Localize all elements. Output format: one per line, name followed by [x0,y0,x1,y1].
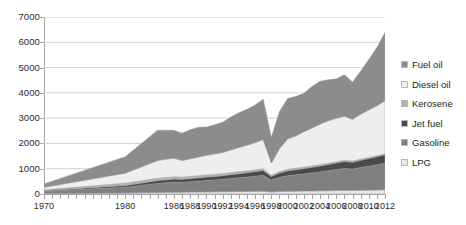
legend-label: LPG [412,157,431,168]
legend-swatch-icon [401,159,408,166]
stacked-area-plot [44,17,385,194]
x-tick-label: 1980 [108,201,142,212]
x-axis-tick [369,195,370,199]
legend-label: Fuel oil [412,59,443,70]
x-axis-tick [125,195,126,199]
x-axis-tick [336,195,337,199]
x-tick-label: 1970 [27,201,61,212]
x-axis-tick [85,195,86,199]
x-axis-tick [109,195,110,199]
x-axis-tick [312,195,313,199]
y-tick-label: 6000 [0,37,40,47]
x-axis-tick [141,195,142,199]
y-tick-label: 3000 [0,113,40,123]
x-axis-ticks [44,195,386,199]
plot-area [44,17,385,194]
x-axis-tick [239,195,240,199]
x-axis-tick [166,195,167,199]
x-axis-tick [288,195,289,199]
legend-item[interactable]: Jet fuel [401,114,465,134]
x-axis-tick [377,195,378,199]
y-tick-label: 1000 [0,164,40,174]
y-tick-label: 4000 [0,88,40,98]
x-axis-tick [328,195,329,199]
legend-swatch-icon [401,100,408,107]
x-axis-labels: 1970198019861988199019921994199619982000… [0,201,466,215]
x-axis-tick [44,195,45,199]
legend-item[interactable]: Gasoline [401,133,465,153]
x-axis-tick [223,195,224,199]
chart-screenshot: 01000200030004000500060007000 1970198019… [0,0,466,225]
x-axis-tick [247,195,248,199]
y-axis-tick [40,17,44,18]
x-axis-tick [133,195,134,199]
legend-item[interactable]: LPG [401,153,465,173]
x-axis-tick [158,195,159,199]
y-axis-tick [40,143,44,144]
x-axis-tick [52,195,53,199]
y-axis-tick [40,118,44,119]
legend-item[interactable]: Fuel oil [401,55,465,75]
x-axis-tick [344,195,345,199]
y-axis-tick [40,68,44,69]
x-axis-tick [263,195,264,199]
y-tick-label: 2000 [0,138,40,148]
legend-label: Jet fuel [412,118,443,129]
y-tick-label: 5000 [0,63,40,73]
legend-swatch-icon [401,81,408,88]
y-axis-tick [40,194,44,195]
legend-item[interactable]: Diesel oil [401,75,465,95]
legend-label: Diesel oil [412,79,451,90]
x-axis-tick [296,195,297,199]
x-axis-tick [60,195,61,199]
x-axis-tick [231,195,232,199]
x-axis-tick [271,195,272,199]
legend-swatch-icon [401,139,408,146]
x-axis-tick [361,195,362,199]
legend-item[interactable]: Kerosene [401,94,465,114]
x-axis-tick [93,195,94,199]
x-axis-tick [320,195,321,199]
y-axis-tick [40,93,44,94]
legend-label: Gasoline [412,137,450,148]
legend-label: Kerosene [412,98,453,109]
x-axis-tick [117,195,118,199]
y-axis: 01000200030004000500060007000 [0,0,40,225]
y-tick-label: 7000 [0,12,40,22]
chart-legend: Fuel oilDiesel oilKeroseneJet fuelGasoli… [401,55,465,172]
x-axis-tick [76,195,77,199]
x-axis-tick [215,195,216,199]
x-axis-tick [279,195,280,199]
x-axis-tick [68,195,69,199]
x-axis-tick [101,195,102,199]
legend-swatch-icon [401,61,408,68]
x-axis-tick [255,195,256,199]
y-tick-label: 0 [0,189,40,199]
x-axis-tick [353,195,354,199]
x-axis-tick [182,195,183,199]
legend-swatch-icon [401,120,408,127]
x-axis-tick [174,195,175,199]
x-axis-tick [190,195,191,199]
x-axis-tick [150,195,151,199]
y-axis-tick [40,42,44,43]
x-axis-tick [385,195,386,199]
y-axis-tick [40,169,44,170]
x-axis-tick [304,195,305,199]
x-tick-label: 2012 [368,201,402,212]
x-axis-tick [198,195,199,199]
x-axis-tick [206,195,207,199]
